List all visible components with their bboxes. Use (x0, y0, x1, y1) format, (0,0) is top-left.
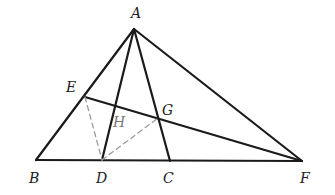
segment-ab (36, 29, 134, 160)
segment-ac (134, 29, 170, 161)
label-d: D (95, 170, 107, 186)
label-c: C (163, 170, 174, 186)
segment-af (134, 29, 302, 161)
geometry-diagram: A B D C F E H G (0, 0, 335, 195)
label-f: F (299, 170, 311, 186)
dashed-segment-ed (85, 97, 102, 160)
label-h: H (112, 114, 126, 130)
label-g: G (162, 102, 173, 118)
label-e: E (65, 79, 76, 95)
label-b: B (28, 170, 39, 186)
solid-segments (36, 29, 302, 161)
label-a: A (129, 5, 141, 21)
figure-svg: A B D C F E H G (0, 0, 335, 195)
